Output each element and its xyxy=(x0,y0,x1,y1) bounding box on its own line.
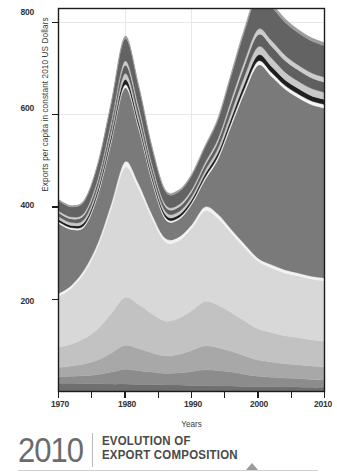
footer-title-line1: EVOLUTION OF xyxy=(102,434,238,448)
stacked-area-plot xyxy=(0,0,337,473)
chart-figure: Exports per capita in constant 2010 US D… xyxy=(0,0,337,473)
footer-year: 2010 xyxy=(18,432,83,469)
footer-title-line2: EXPORT COMPOSITION xyxy=(102,448,238,462)
triangle-up-icon xyxy=(246,463,258,470)
footer-rule xyxy=(18,470,318,471)
footer-title-block: 2010 EVOLUTION OF EXPORT COMPOSITION xyxy=(18,432,318,472)
footer-divider xyxy=(92,433,93,467)
footer-title: EVOLUTION OF EXPORT COMPOSITION xyxy=(102,432,238,461)
